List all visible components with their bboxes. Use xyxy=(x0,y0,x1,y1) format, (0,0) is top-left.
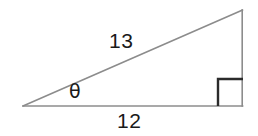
right-angle-icon xyxy=(218,79,243,106)
adjacent-side-label: 12 xyxy=(117,110,141,131)
hypotenuse-label: 13 xyxy=(109,30,133,51)
diagram-canvas: 13 12 θ xyxy=(0,0,258,136)
theta-angle-label: θ xyxy=(69,82,81,101)
triangle-side-hypotenuse xyxy=(23,10,243,106)
